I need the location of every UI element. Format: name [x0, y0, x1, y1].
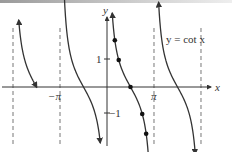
y-tick-label-1: 1 [96, 53, 102, 65]
data-point [140, 112, 145, 117]
cot-branch [64, 0, 101, 143]
cot-branch [19, 20, 37, 87]
x-axis-label: x [214, 81, 220, 93]
y-axis-label: y [102, 4, 108, 16]
cot-branch [112, 13, 149, 152]
cot-graph: x y −π π 1 −1 y = cot x [0, 0, 232, 152]
data-point [116, 58, 121, 63]
data-point [144, 131, 149, 136]
data-point [128, 85, 133, 90]
y-tick-label-neg1: −1 [109, 107, 121, 119]
equation-label: y = cot x [166, 33, 205, 45]
neg-pi-label: −π [48, 90, 61, 102]
cot-branch [159, 2, 196, 152]
pi-label: π [151, 90, 157, 102]
data-point [113, 38, 118, 43]
